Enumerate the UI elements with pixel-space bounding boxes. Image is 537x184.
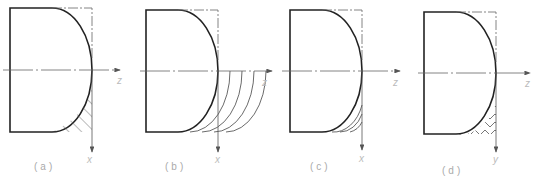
axis-label-x: x: [86, 154, 93, 165]
panel-b: z x (b): [140, 10, 272, 172]
axis-label-x: x: [358, 153, 365, 164]
caption-d: (d): [442, 165, 463, 176]
caption-b: (b): [165, 161, 186, 172]
panel-a: z x (a): [3, 8, 122, 172]
caption-c: (c): [310, 161, 331, 172]
axis-label-x: x: [214, 154, 221, 165]
axis-label-z: z: [116, 75, 122, 86]
axis-label-z: z: [261, 77, 267, 88]
figure-canvas: z x (a) z x (b) z x (c) z y: [0, 0, 537, 184]
axis-label-z: z: [524, 78, 530, 89]
panel-c: z x (c): [282, 10, 400, 172]
axis-label-z: z: [392, 77, 398, 88]
panel-d: z y (d): [418, 12, 530, 176]
caption-a: (a): [34, 161, 55, 172]
axis-label-y: y: [492, 154, 499, 165]
